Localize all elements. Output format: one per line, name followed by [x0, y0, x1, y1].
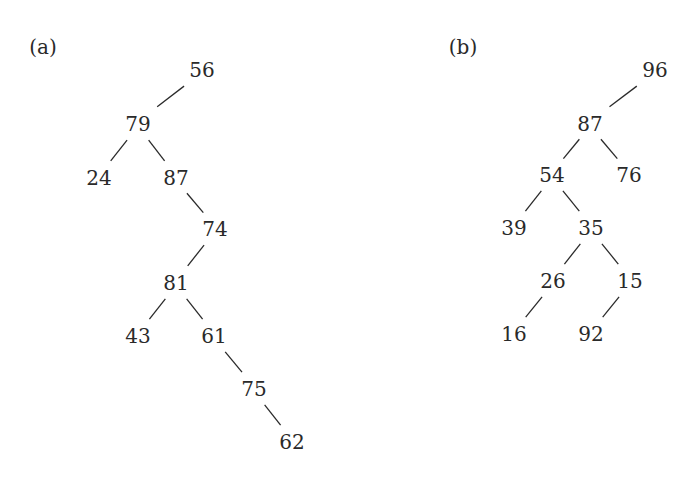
tree-b-node: 35 [578, 218, 603, 238]
tree-edge [265, 405, 281, 425]
tree-a-node: 56 [189, 60, 214, 80]
tree-a-node: 74 [202, 219, 227, 239]
tree-edge [610, 86, 637, 107]
panel-label-b: (b) [449, 37, 477, 57]
tree-edge [563, 191, 579, 211]
tree-edge [564, 244, 580, 264]
tree-edge [187, 193, 203, 212]
tree-a-node: 43 [125, 326, 150, 346]
panel-label-a: (a) [29, 37, 57, 57]
tree-edge [602, 244, 618, 264]
tree-b-node: 16 [501, 324, 526, 344]
tree-a-node: 61 [201, 326, 226, 346]
tree-a-node: 62 [279, 432, 304, 452]
tree-b-node: 87 [577, 114, 602, 134]
tree-edge [225, 352, 242, 372]
tree-diagram: (a) (b) 56 79 24 87 74 81 43 61 75 62 96… [0, 0, 696, 478]
tree-b-node: 92 [578, 324, 603, 344]
tree-a-node: 87 [163, 168, 188, 188]
tree-a-node: 75 [241, 379, 266, 399]
tree-edge [563, 139, 579, 158]
tree-a-node: 81 [163, 273, 188, 293]
tree-edge [525, 191, 541, 211]
tree-edge [603, 297, 619, 317]
tree-edge [149, 140, 165, 161]
tree-b-node: 96 [642, 60, 667, 80]
tree-b-node: 76 [616, 165, 641, 185]
tree-a-node: 24 [86, 168, 111, 188]
tree-edge [526, 297, 542, 317]
tree-b-node: 39 [501, 218, 526, 238]
tree-b-node: 54 [539, 165, 564, 185]
tree-edge [188, 245, 204, 266]
tree-edge [157, 86, 184, 107]
tree-edge [111, 140, 127, 161]
tree-edge [149, 299, 165, 319]
tree-edge [187, 299, 203, 319]
tree-edge [601, 139, 617, 158]
tree-a-node: 79 [125, 114, 150, 134]
tree-b-node: 26 [540, 271, 565, 291]
tree-b-node: 15 [617, 271, 642, 291]
